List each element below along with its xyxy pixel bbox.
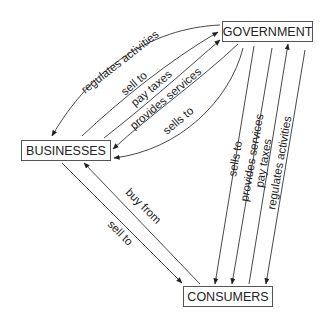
label-sells-to-con: sells to (226, 140, 244, 177)
node-consumers: CONSUMERS (183, 286, 273, 307)
label-sells-to-biz: sells to (161, 104, 196, 136)
label-sell-to-con: sell to (106, 218, 136, 248)
node-government: GOVERNMENT (222, 21, 313, 42)
diagram-arrows: regulates activities sell to pay taxes p… (0, 0, 326, 323)
arrow-consumers-buy-from-businesses (84, 163, 200, 284)
label-buy-from: buy from (124, 186, 164, 226)
circular-flow-diagram: regulates activities sell to pay taxes p… (0, 0, 326, 323)
node-businesses: BUSINESSES (21, 140, 111, 161)
arrow-businesses-sell-to-consumers (62, 163, 182, 283)
